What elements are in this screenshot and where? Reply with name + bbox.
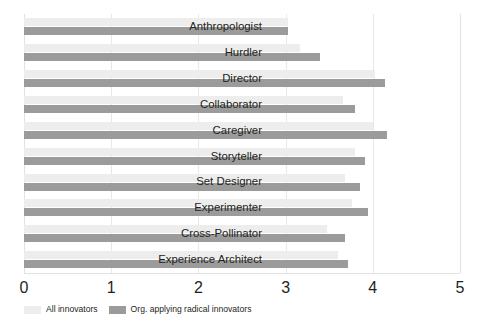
category-label: Experimenter [0, 195, 263, 221]
legend-label-radical-innovators: Org. applying radical innovators [131, 305, 252, 314]
legend-label-all-innovators: All innovators [46, 305, 98, 314]
legend-item-all-innovators: All innovators [24, 305, 98, 314]
x-axis-line [24, 273, 460, 274]
bar-chart: AnthropologistHurdlerDirectorCollaborato… [0, 0, 483, 331]
category-label: Cross-Pollinator [0, 221, 263, 247]
chart-legend: All innovators Org. applying radical inn… [24, 305, 251, 314]
x-tick-label-5: 5 [440, 279, 480, 297]
category-axis-labels: AnthropologistHurdlerDirectorCollaborato… [0, 14, 263, 273]
x-tick-label-3: 3 [266, 279, 306, 297]
category-label: Collaborator [0, 92, 263, 118]
x-tick-label-0: 0 [4, 279, 44, 297]
x-tick-label-2: 2 [178, 279, 218, 297]
gridline-5 [460, 14, 461, 273]
x-tick-label-4: 4 [353, 279, 393, 297]
legend-swatch-icon-all-innovators [24, 306, 41, 314]
category-label: Storyteller [0, 144, 263, 170]
x-axis-tick-labels: 012345 [0, 279, 483, 301]
legend-item-radical-innovators: Org. applying radical innovators [109, 305, 252, 314]
legend-swatch-icon-radical-innovators [109, 306, 126, 314]
category-label: Caregiver [0, 118, 263, 144]
category-label: Set Designer [0, 169, 263, 195]
category-label: Hurdler [0, 40, 263, 66]
x-tick-label-1: 1 [91, 279, 131, 297]
category-label: Anthropologist [0, 14, 263, 40]
category-label: Experience Architect [0, 247, 263, 273]
category-label: Director [0, 66, 263, 92]
